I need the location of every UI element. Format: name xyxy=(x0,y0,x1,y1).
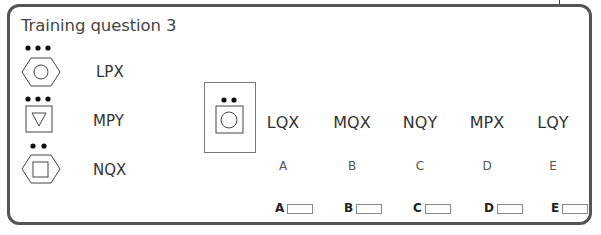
option-letter-e: E xyxy=(538,159,568,173)
option-letter-b: B xyxy=(337,159,367,173)
answer-a-checkbox[interactable] xyxy=(287,204,313,214)
example-code-nqx: NQX xyxy=(93,161,126,179)
answer-c-checkbox[interactable] xyxy=(425,204,451,214)
answer-d-checkbox[interactable] xyxy=(497,204,523,214)
question-title: Training question 3 xyxy=(21,16,176,35)
answer-d-label: D xyxy=(484,201,494,215)
hexagon-circle-3dots-icon xyxy=(18,44,62,92)
example-code-lpx: LPX xyxy=(96,63,124,81)
square-triangle-3dots-icon xyxy=(18,95,62,135)
answer-c-label: C xyxy=(413,201,422,215)
option-letter-d: D xyxy=(472,159,502,173)
answer-a[interactable]: A xyxy=(275,201,313,215)
answer-b[interactable]: B xyxy=(344,201,382,215)
answer-d[interactable]: D xyxy=(484,201,523,215)
answer-b-label: B xyxy=(344,201,353,215)
hexagon-square-2dots-icon xyxy=(18,142,62,190)
answer-e[interactable]: E xyxy=(551,201,588,215)
option-code-b: MQX xyxy=(322,113,382,132)
option-letter-a: A xyxy=(268,159,298,173)
option-letter-c: C xyxy=(405,159,435,173)
answer-e-label: E xyxy=(551,201,559,215)
option-code-e: LQY xyxy=(523,113,583,132)
answer-c[interactable]: C xyxy=(413,201,451,215)
square-circle-2dots-icon xyxy=(213,96,247,136)
answer-b-checkbox[interactable] xyxy=(356,204,382,214)
answer-a-label: A xyxy=(275,201,284,215)
answer-e-checkbox[interactable] xyxy=(562,204,588,214)
option-code-c: NQY xyxy=(390,113,450,132)
option-code-d: MPX xyxy=(457,113,517,132)
example-code-mpy: MPY xyxy=(93,112,124,130)
option-code-a: LQX xyxy=(253,113,313,132)
